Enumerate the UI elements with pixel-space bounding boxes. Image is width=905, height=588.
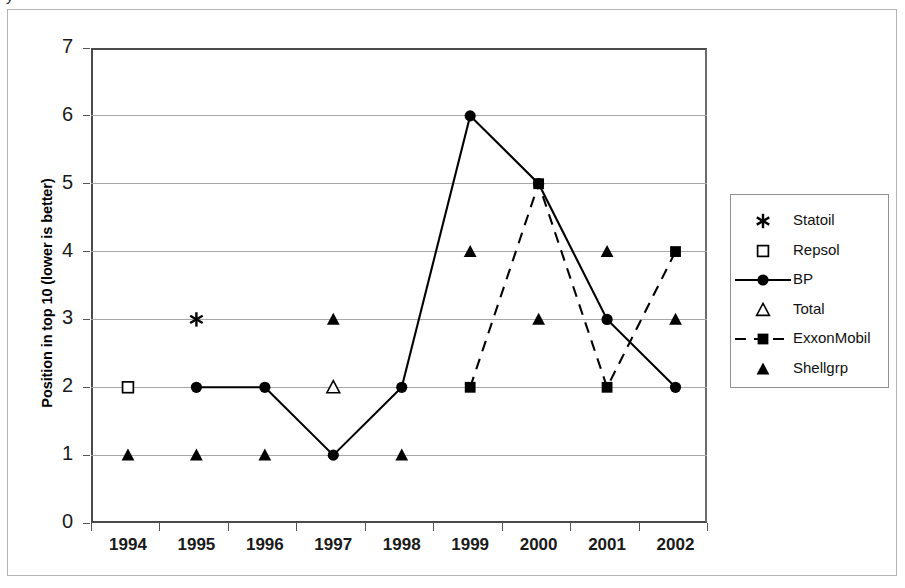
y-axis-tick-label: 2 [43, 374, 73, 397]
y-axis-tick-label: 6 [43, 103, 73, 126]
open-square-marker [758, 245, 769, 256]
x-axis-tick-mark [159, 523, 160, 531]
legend-label: BP [793, 270, 813, 287]
dashed-line-square-marker [735, 323, 791, 355]
x-axis-tick-label: 1999 [435, 535, 505, 555]
legend-label: Shellgrp [793, 359, 848, 376]
gridline [91, 251, 707, 252]
x-axis-tick-label: 2000 [504, 535, 574, 555]
x-axis-tick-label: 1994 [93, 535, 163, 555]
x-axis-tick-mark [296, 523, 297, 531]
y-axis-tick-label: 5 [43, 171, 73, 194]
legend-item-exxonmobil[interactable]: ExxonMobil [731, 323, 890, 355]
y-axis-tick-label: 3 [43, 306, 73, 329]
y-axis-tick-label: 0 [43, 510, 73, 533]
x-axis-tick-label: 2001 [572, 535, 642, 555]
x-axis-tick-mark [228, 523, 229, 531]
gridline [91, 115, 707, 116]
x-axis-tick-label: 1997 [298, 535, 368, 555]
asterisk-marker [735, 205, 791, 237]
x-axis-tick-mark [433, 523, 434, 531]
legend-label: Total [793, 300, 825, 317]
x-axis-tick-label: 1998 [367, 535, 437, 555]
x-axis-tick-mark [91, 523, 92, 531]
gridline [91, 455, 707, 456]
x-axis-tick-mark [570, 523, 571, 531]
gridline [91, 183, 707, 184]
x-axis-tick-mark [365, 523, 366, 531]
solid-line-circle-marker [757, 274, 768, 285]
y-axis-tick-label: 1 [43, 442, 73, 465]
x-axis-tick-label: 1996 [230, 535, 300, 555]
x-axis-tick-label: 1995 [161, 535, 231, 555]
dashed-line-square-marker [758, 334, 769, 345]
legend-item-repsol[interactable]: Repsol [731, 235, 890, 267]
y-axis-tick-mark [83, 455, 90, 456]
legend-label: ExxonMobil [793, 329, 871, 346]
y-axis-tick-mark [83, 523, 90, 524]
legend-label: Statoil [793, 211, 835, 228]
legend-item-statoil[interactable]: Statoil [731, 205, 890, 237]
gridline [91, 387, 707, 388]
chart-legend: StatoilRepsolBPTotalExxonMobilShellgrp [730, 194, 889, 388]
x-axis-tick-label: 2002 [641, 535, 711, 555]
plot-area-frame [91, 48, 707, 523]
y-axis-tick-mark [83, 387, 90, 388]
y-axis-tick-mark [83, 48, 90, 49]
y-axis-tick-label: 7 [43, 35, 73, 58]
open-square-marker [735, 235, 791, 267]
legend-item-shellgrp[interactable]: Shellgrp [731, 353, 890, 385]
x-axis-tick-mark [502, 523, 503, 531]
y-axis-tick-mark [83, 251, 90, 252]
filled-triangle-marker [735, 353, 791, 385]
x-axis-tick-mark [707, 523, 708, 531]
line-chart: Position in top 10 (lower is better) 012… [0, 0, 905, 588]
y-axis-title: Position in top 10 (lower is better) [39, 83, 55, 503]
gridline [91, 319, 707, 320]
legend-item-bp[interactable]: BP [731, 264, 890, 296]
open-triangle-marker [735, 294, 791, 326]
legend-item-total[interactable]: Total [731, 294, 890, 326]
asterisk-marker [757, 214, 769, 228]
y-axis-tick-mark [83, 319, 90, 320]
y-axis-tick-label: 4 [43, 239, 73, 262]
y-axis-tick-mark [83, 183, 90, 184]
y-axis-tick-mark [83, 115, 90, 116]
open-triangle-marker [757, 303, 770, 315]
solid-line-circle-marker [735, 264, 791, 296]
x-axis-tick-mark [639, 523, 640, 531]
legend-label: Repsol [793, 241, 840, 258]
filled-triangle-marker [757, 362, 770, 374]
